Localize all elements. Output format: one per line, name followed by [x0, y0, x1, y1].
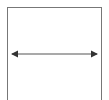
double-arrow-icon — [0, 0, 109, 100]
